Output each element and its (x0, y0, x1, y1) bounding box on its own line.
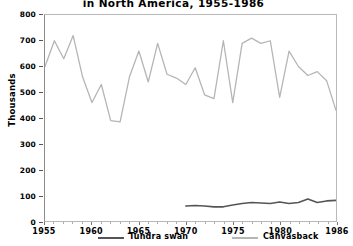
x-tick-mark-1962 (110, 222, 111, 224)
legend-label: Tundra swan (129, 232, 188, 241)
x-tick-mark-1981 (290, 222, 291, 224)
x-tick-mark-1986 (337, 222, 338, 225)
x-tick-mark-1959 (82, 222, 83, 224)
x-tick-mark-1958 (72, 222, 73, 224)
y-tick-label-400: 400 (6, 114, 36, 123)
x-tick-mark-1964 (129, 222, 130, 224)
x-tick-mark-1979 (271, 222, 272, 224)
x-tick-mark-1965 (139, 222, 140, 225)
y-tick-mark-0 (39, 222, 43, 223)
y-tick-label-800: 800 (6, 10, 36, 19)
y-tick-label-700: 700 (6, 36, 36, 45)
y-tick-label-600: 600 (6, 62, 36, 71)
x-tick-mark-1961 (101, 222, 102, 224)
x-tick-mark-1978 (261, 222, 262, 224)
y-tick-mark-700 (39, 40, 43, 41)
y-axis-label: Thousands (7, 65, 17, 135)
x-tick-mark-1984 (318, 222, 319, 224)
y-tick-mark-500 (39, 92, 43, 93)
legend-swatch-icon (232, 237, 258, 239)
x-tick-mark-1982 (299, 222, 300, 224)
x-tick-mark-1957 (63, 222, 64, 224)
series-canvas (45, 15, 336, 221)
y-tick-label-200: 200 (6, 166, 36, 175)
y-tick-mark-100 (39, 196, 43, 197)
x-tick-mark-1955 (44, 222, 45, 225)
y-tick-mark-300 (39, 144, 43, 145)
x-tick-mark-1968 (167, 222, 168, 224)
legend-label: Canvasback (263, 232, 319, 241)
x-tick-mark-1956 (53, 222, 54, 224)
y-tick-label-0: 0 (6, 218, 36, 227)
x-tick-mark-1960 (91, 222, 92, 225)
x-tick-mark-1980 (280, 222, 281, 225)
legend-swatch-icon (98, 237, 124, 239)
x-tick-mark-1983 (309, 222, 310, 224)
y-tick-mark-800 (39, 14, 43, 15)
x-tick-mark-1977 (252, 222, 253, 224)
y-tick-label-300: 300 (6, 140, 36, 149)
x-tick-mark-1972 (205, 222, 206, 224)
series-line-tundra-swan (45, 36, 336, 122)
y-tick-mark-200 (39, 170, 43, 171)
series-line-canvasback (186, 198, 336, 207)
x-tick-mark-1971 (195, 222, 196, 224)
y-tick-mark-600 (39, 66, 43, 67)
chart-title: in North America, 1955-1986 (0, 0, 347, 9)
chart-legend: Tundra swanCanvasback (0, 232, 347, 246)
x-tick-mark-1967 (157, 222, 158, 224)
x-tick-mark-1969 (176, 222, 177, 224)
x-tick-mark-1973 (214, 222, 215, 224)
x-tick-mark-1976 (242, 222, 243, 224)
y-tick-mark-400 (39, 118, 43, 119)
y-tick-label-500: 500 (6, 88, 36, 97)
x-tick-mark-1985 (328, 222, 329, 224)
y-tick-label-100: 100 (6, 192, 36, 201)
plot-area (44, 14, 337, 222)
x-tick-mark-1970 (186, 222, 187, 225)
x-tick-mark-1975 (233, 222, 234, 225)
x-tick-mark-1963 (120, 222, 121, 224)
x-tick-mark-1974 (224, 222, 225, 224)
x-tick-mark-1966 (148, 222, 149, 224)
